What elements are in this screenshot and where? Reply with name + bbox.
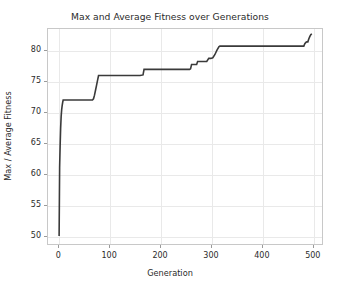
x-tick-label: 200 <box>140 252 180 260</box>
chart-title: Max and Average Fitness over Generations <box>0 11 340 22</box>
x-axis-label: Generation <box>0 268 340 278</box>
x-tick-mark <box>58 245 59 248</box>
y-tick-label: 55 <box>1 201 41 209</box>
plot-area <box>47 28 323 245</box>
x-tick-mark <box>160 245 161 248</box>
y-axis-label: Max / Average Fitness <box>3 91 13 180</box>
chart-figure: Max and Average Fitness over Generations… <box>0 0 340 291</box>
x-tick-mark <box>211 245 212 248</box>
y-tick-label: 75 <box>1 77 41 85</box>
fitness-line-series <box>48 29 322 244</box>
x-tick-label: 300 <box>191 252 231 260</box>
y-tick-label: 80 <box>1 46 41 54</box>
x-tick-label: 0 <box>38 252 78 260</box>
x-tick-mark <box>313 245 314 248</box>
y-tick-label: 50 <box>1 232 41 240</box>
x-tick-label: 400 <box>242 252 282 260</box>
x-tick-label: 100 <box>89 252 129 260</box>
x-tick-mark <box>262 245 263 248</box>
x-tick-label: 500 <box>293 252 333 260</box>
x-tick-mark <box>109 245 110 248</box>
